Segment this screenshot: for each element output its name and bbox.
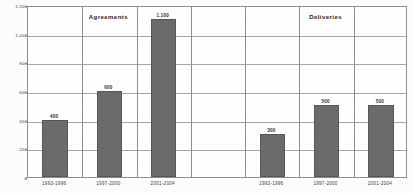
gridline-vertical [354, 7, 355, 177]
panel-title-agreements: Agreements [89, 14, 128, 21]
bar-value-label: 500 [321, 99, 329, 104]
y-axis-tick-label: 0 [1, 176, 27, 181]
gridline-vertical [245, 7, 246, 177]
gridline-vertical [299, 7, 300, 177]
x-axis-tick-label: 1997-2000 [313, 181, 337, 187]
x-axis-tick-label: 2001-2004 [151, 181, 175, 187]
y-axis-tick-label: 1,200 [1, 4, 27, 9]
bar [97, 91, 123, 177]
x-axis-tick-label: 2001-2004 [368, 181, 392, 187]
y-axis: 02004006008001,0001,200 [0, 6, 27, 178]
gridline-horizontal [28, 150, 406, 151]
gridline-horizontal [28, 64, 406, 65]
y-axis-tick-label: 200 [1, 147, 27, 152]
y-axis-tick-label: 600 [1, 90, 27, 95]
bar [260, 134, 286, 177]
plot-area [27, 6, 407, 178]
gridline-vertical [82, 7, 83, 177]
x-axis-tick-label: 1997-2000 [96, 181, 120, 187]
gridline-horizontal [28, 93, 406, 94]
bar-value-label: 400 [50, 114, 58, 119]
y-axis-tick-label: 1,000 [1, 32, 27, 37]
bar-value-label: 300 [267, 128, 275, 133]
gridline-horizontal [28, 122, 406, 123]
x-axis-tick-label: 1993-1996 [259, 181, 283, 187]
gridline-vertical [137, 7, 138, 177]
y-axis-tick-mark [25, 178, 27, 179]
bar [42, 120, 68, 177]
bar [151, 19, 177, 177]
bar [314, 105, 340, 177]
gridline-horizontal [28, 36, 406, 37]
bar-value-label: 500 [376, 99, 384, 104]
bar-value-label: 1,100 [156, 13, 169, 18]
panel-title-deliveries: Deliveries [309, 14, 342, 21]
bar-value-label: 600 [104, 85, 112, 90]
bar-chart: 02004006008001,0001,200 Agreements400199… [0, 0, 413, 194]
x-axis-tick-label: 1993-1996 [42, 181, 66, 187]
gridline-vertical [191, 7, 192, 177]
y-axis-tick-label: 800 [1, 61, 27, 66]
bar [368, 105, 394, 177]
y-axis-tick-label: 400 [1, 118, 27, 123]
